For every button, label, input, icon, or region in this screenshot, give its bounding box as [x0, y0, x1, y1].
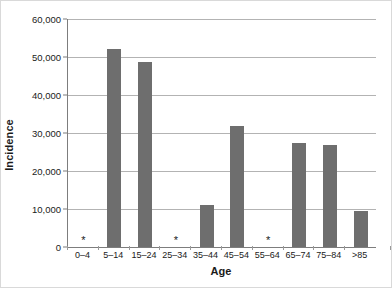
bar-slot: [191, 19, 222, 247]
bar-series: ***: [68, 19, 376, 247]
suppressed-value-marker: *: [266, 237, 270, 243]
x-axis-title: Age: [67, 265, 375, 277]
y-axis-tick-label: 0: [56, 242, 61, 253]
x-axis-tick-label: >85: [344, 250, 375, 264]
y-axis-tick-labels: 010,00020,00030,00040,00050,00060,000: [19, 13, 63, 253]
bar-slot: [314, 19, 345, 247]
y-axis-title: Incidence: [1, 1, 17, 288]
x-axis-tick-label: 55–64: [252, 250, 283, 264]
bar: [230, 126, 244, 247]
bar: [354, 211, 368, 247]
bar-slot: *: [253, 19, 284, 247]
bar-slot: *: [68, 19, 99, 247]
y-axis-tick-label: 30,000: [32, 128, 61, 139]
x-axis-tick-labels: 0–45–1415–2425–3435–4445–5455–6465–7475–…: [67, 250, 375, 264]
x-axis-tick-label: 25–34: [159, 250, 190, 264]
bar: [292, 143, 306, 247]
bar-slot: [284, 19, 315, 247]
x-axis-tick-label: 15–24: [129, 250, 160, 264]
bar-slot: *: [160, 19, 191, 247]
y-axis-tick-label: 20,000: [32, 166, 61, 177]
x-axis-end-tick: [390, 246, 391, 250]
bar-slot: [222, 19, 253, 247]
bar: [323, 145, 337, 247]
suppressed-value-marker: *: [174, 237, 178, 243]
bar: [138, 62, 152, 247]
x-axis-tick-label: 45–54: [221, 250, 252, 264]
x-axis-tick-label: 0–4: [67, 250, 98, 264]
suppressed-value-marker: *: [81, 237, 85, 243]
y-axis-tick-label: 50,000: [32, 52, 61, 63]
x-axis-tick-label: 75–84: [313, 250, 344, 264]
y-axis-tick-label: 40,000: [32, 90, 61, 101]
bar-slot: [130, 19, 161, 247]
bar: [107, 49, 121, 247]
x-axis-tick-label: 5–14: [98, 250, 129, 264]
bar-slot: [345, 19, 376, 247]
bar-chart-figure: Incidence 010,00020,00030,00040,00050,00…: [0, 0, 392, 288]
bar: [200, 205, 214, 247]
x-axis-tick-label: 35–44: [190, 250, 221, 264]
y-axis-tick-label: 10,000: [32, 204, 61, 215]
x-axis-tick-label: 65–74: [283, 250, 314, 264]
plot-area: ***: [67, 19, 376, 248]
y-axis-tick-label: 60,000: [32, 14, 61, 25]
bar-slot: [99, 19, 130, 247]
